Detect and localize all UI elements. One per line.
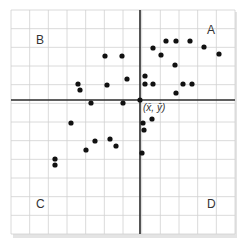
data-point (120, 100, 125, 105)
data-point (173, 90, 178, 95)
data-point (104, 82, 109, 87)
data-point (172, 62, 177, 67)
quadrant-label-b: B (36, 33, 44, 47)
data-point (150, 81, 155, 86)
data-point (92, 138, 97, 143)
quadrant-label-c: C (36, 197, 45, 211)
data-point (216, 51, 221, 56)
data-point (150, 45, 155, 50)
data-point (77, 87, 82, 92)
data-point (187, 38, 192, 43)
data-point (142, 73, 147, 78)
data-point (68, 120, 73, 125)
data-point (102, 53, 107, 58)
data-point (119, 53, 124, 58)
data-point (163, 38, 168, 43)
data-point (52, 156, 57, 161)
data-point (75, 81, 80, 86)
data-point (107, 136, 112, 141)
data-point (137, 97, 142, 102)
data-point (140, 120, 145, 125)
mean-point-label: (x̄, ȳ) (143, 102, 165, 113)
data-point (173, 38, 178, 43)
data-point (83, 147, 88, 152)
data-point (201, 44, 206, 49)
data-point (180, 81, 185, 86)
data-point (88, 100, 93, 105)
scatter-plot: A B C D (x̄, ȳ) (0, 0, 237, 239)
data-point (113, 143, 118, 148)
quadrant-label-d: D (207, 197, 216, 211)
data-point (124, 76, 129, 81)
data-point (149, 116, 154, 121)
data-point (189, 81, 194, 86)
data-point (158, 52, 163, 57)
data-point (142, 81, 147, 86)
data-point (141, 127, 146, 132)
quadrant-label-a: A (207, 23, 215, 37)
data-point (52, 162, 57, 167)
data-point (139, 150, 144, 155)
